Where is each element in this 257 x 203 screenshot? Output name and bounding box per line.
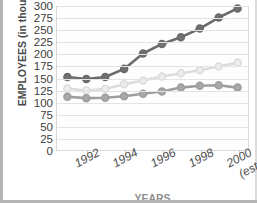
y-tick-label: 125 xyxy=(20,85,53,96)
plot-area: 1991: 1521992: 1481993: 1521994: 1691995… xyxy=(56,6,249,151)
image-border-left xyxy=(0,0,3,203)
data-point: 1994: 112 xyxy=(121,93,128,100)
gridline xyxy=(57,30,248,31)
image-border-bottom xyxy=(0,200,257,203)
x-tick-mark xyxy=(87,150,88,154)
x-tick-label-note: (est.) xyxy=(237,156,257,181)
data-point: 1997: 235 xyxy=(177,34,184,41)
x-tick-mark xyxy=(125,150,126,154)
gridline xyxy=(57,139,248,140)
data-point: 1999: 135 xyxy=(215,82,222,89)
gridline xyxy=(57,66,248,67)
y-tick-label: 0 xyxy=(20,146,53,157)
data-point: 1991: 111 xyxy=(64,93,71,100)
series-dark-series: 1991: 1521992: 1481993: 1521994: 1691995… xyxy=(64,5,241,83)
data-point: 1992: 108 xyxy=(83,95,90,102)
y-axis-tick-labels: 0255075100125150175200225250275300 xyxy=(20,0,53,160)
series-line xyxy=(67,85,237,98)
y-tick-label: 250 xyxy=(20,25,53,36)
image-border-right xyxy=(255,0,257,203)
x-tick-mark xyxy=(239,150,240,154)
x-tick-mark xyxy=(163,150,164,154)
x-tick-mark xyxy=(201,150,202,154)
y-tick-label: 225 xyxy=(20,37,53,48)
y-tick-label: 175 xyxy=(20,61,53,72)
data-point: 2000: 182 xyxy=(234,59,241,66)
y-tick-label: 75 xyxy=(20,109,53,120)
gridline xyxy=(57,103,248,104)
gridline xyxy=(57,6,248,7)
x-axis-title: YEARS xyxy=(56,192,249,200)
gridline xyxy=(57,79,248,80)
gridline xyxy=(57,42,248,43)
data-point: 1993: 109 xyxy=(102,94,109,101)
series-light-series: 1991: 1281992: 1241993: 1271994: 1371995… xyxy=(64,59,241,94)
gridline xyxy=(57,127,248,128)
gridline xyxy=(57,54,248,55)
y-tick-label: 25 xyxy=(20,133,53,144)
y-tick-label: 300 xyxy=(20,1,53,12)
y-tick-label: 150 xyxy=(20,73,53,84)
data-point: 1998: 166 xyxy=(196,67,203,74)
data-point: 1998: 134 xyxy=(196,82,203,89)
gridline xyxy=(57,18,248,19)
y-tick-label: 275 xyxy=(20,13,53,24)
y-tick-label: 50 xyxy=(20,121,53,132)
gridline xyxy=(57,115,248,116)
gridline xyxy=(57,91,248,92)
data-point: 1994: 137 xyxy=(121,81,128,88)
data-point: 1997: 160 xyxy=(177,70,184,77)
employees-line-chart: EMPLOYEES (in thousands) 025507510012515… xyxy=(0,0,257,203)
y-tick-label: 100 xyxy=(20,97,53,108)
series-medium-series: 1991: 1111992: 1081993: 1091994: 1121995… xyxy=(64,82,241,102)
y-tick-label: 200 xyxy=(20,49,53,60)
